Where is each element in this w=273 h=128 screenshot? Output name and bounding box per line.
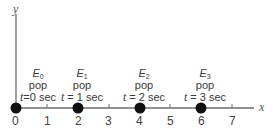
- tick-label-0: 0: [12, 115, 19, 127]
- event-e1-label: E1 pop t = 1 sec: [60, 68, 104, 103]
- event-dot-e2: [135, 103, 146, 114]
- tick-label-1: 1: [44, 115, 51, 127]
- event-time: t = 2 sec: [122, 91, 166, 103]
- spacetime-diagram: y x 0 1 2 3 4 5 6 7 E0 pop t=0 sec E1 po…: [0, 0, 273, 128]
- event-time: t = 1 sec: [60, 91, 104, 103]
- y-axis-label: y: [13, 3, 18, 15]
- tick-label-5: 5: [167, 115, 174, 127]
- event-time: t = 3 sec: [183, 91, 227, 103]
- event-time: t=0 sec: [16, 91, 60, 103]
- tick-label-3: 3: [105, 115, 112, 127]
- event-dot-e3: [196, 103, 207, 114]
- tick-label-6: 6: [198, 115, 205, 127]
- event-word: pop: [122, 80, 166, 91]
- axes-graphic: [0, 0, 273, 128]
- tick-label-4: 4: [136, 115, 143, 127]
- tick-label-2: 2: [75, 115, 82, 127]
- x-axis-label: x: [259, 101, 264, 113]
- event-e2-label: E2 pop t = 2 sec: [122, 68, 166, 103]
- event-dot-e1: [73, 103, 84, 114]
- event-word: pop: [60, 80, 104, 91]
- event-word: pop: [183, 80, 227, 91]
- event-e0-label: E0 pop t=0 sec: [16, 68, 60, 103]
- event-dot-e0: [11, 103, 22, 114]
- tick-label-7: 7: [229, 115, 236, 127]
- event-e3-label: E3 pop t = 3 sec: [183, 68, 227, 103]
